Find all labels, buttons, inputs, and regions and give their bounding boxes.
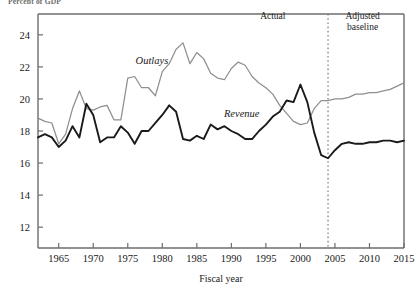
x-axis-title: Fiscal year — [199, 273, 243, 284]
series-line-revenue — [38, 85, 404, 159]
y-tick-label: 22 — [20, 62, 31, 73]
x-tick-label: 2005 — [324, 253, 345, 264]
y-tick-label: 18 — [20, 126, 31, 137]
y-tick-label: 16 — [20, 158, 31, 169]
data-series-group — [38, 43, 404, 158]
x-tick-label: 1975 — [117, 253, 138, 264]
x-tick-label: 1970 — [83, 253, 104, 264]
y-tick-label: 12 — [20, 222, 31, 233]
x-tick-label: 1990 — [221, 253, 242, 264]
y-tick-label: 20 — [20, 94, 31, 105]
x-axis-ticks: 1965197019751980198519901995200020052010… — [48, 243, 414, 264]
x-tick-label: 2000 — [290, 253, 311, 264]
plot-frame — [38, 14, 404, 248]
x-tick-label: 1985 — [186, 253, 207, 264]
y-tick-label: 14 — [20, 190, 31, 201]
adjusted-baseline-label: Adjusted — [345, 11, 380, 21]
chart-svg: 12141618202224 1965197019751980198519901… — [0, 0, 420, 296]
y-axis-ticks: 12141618202224 — [20, 30, 44, 233]
outlays-inline-label: Outlays — [136, 55, 169, 66]
annotations-group: ActualAdjustedbaselineOutlaysRevenue — [136, 11, 380, 119]
chart-figure: Percent of GDP 12141618202224 1965197019… — [0, 0, 420, 296]
y-tick-label: 24 — [20, 30, 31, 41]
revenue-inline-label: Revenue — [223, 108, 260, 119]
x-tick-label: 1995 — [255, 253, 276, 264]
adjusted-baseline-label: baseline — [347, 22, 378, 32]
actual-label: Actual — [260, 11, 286, 21]
x-tick-label: 2015 — [394, 253, 415, 264]
x-tick-label: 1980 — [152, 253, 173, 264]
x-tick-label: 1965 — [48, 253, 69, 264]
x-tick-label: 2010 — [359, 253, 380, 264]
